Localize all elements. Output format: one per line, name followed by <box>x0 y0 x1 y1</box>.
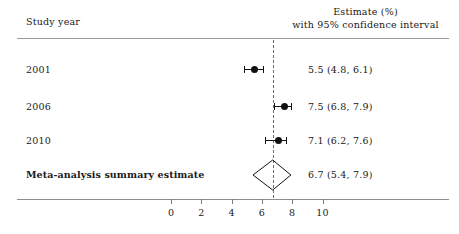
axis-tick <box>292 199 293 204</box>
column-header-estimate-line1: Estimate (%) <box>278 5 453 18</box>
row-label: 2001 <box>26 64 51 75</box>
ci-cap-lower <box>274 103 275 110</box>
study-row: 20015.5 (4.8, 6.1) <box>0 55 459 85</box>
summary-diamond <box>252 158 292 192</box>
point-estimate-marker <box>281 103 288 110</box>
header-divider-rule <box>17 38 449 39</box>
column-header-estimate: Estimate (%) with 95% confidence interva… <box>278 5 453 31</box>
ci-cap-lower <box>244 66 245 73</box>
row-label: 2010 <box>26 135 51 146</box>
axis-tick-label: 8 <box>280 207 304 218</box>
summary-row: Meta-analysis summary estimate6.7 (5.4, … <box>0 160 459 190</box>
axis-tick-label: 10 <box>311 207 335 218</box>
column-header-study-year: Study year <box>26 16 80 27</box>
row-label: 2006 <box>26 101 51 112</box>
axis-tick-label: 6 <box>250 207 274 218</box>
axis-tick-label: 0 <box>159 207 183 218</box>
ci-cap-upper <box>263 66 264 73</box>
axis-tick <box>171 199 172 204</box>
column-header-estimate-line2: with 95% confidence interval <box>278 18 453 31</box>
row-estimate-value: 7.1 (6.2, 7.6) <box>308 135 373 146</box>
axis-baseline-rule <box>17 199 449 200</box>
ci-cap-upper <box>291 103 292 110</box>
row-estimate-value: 7.5 (6.8, 7.9) <box>308 101 373 112</box>
study-row: 20107.1 (6.2, 7.6) <box>0 126 459 156</box>
row-estimate-value: 6.7 (5.4, 7.9) <box>308 169 373 180</box>
axis-tick <box>201 199 202 204</box>
point-estimate-marker <box>251 66 258 73</box>
axis-tick-label: 2 <box>189 207 213 218</box>
axis-tick <box>232 199 233 204</box>
row-label: Meta-analysis summary estimate <box>26 169 204 180</box>
forest-plot: Study year Estimate (%) with 95% confide… <box>0 0 459 234</box>
study-row: 20067.5 (6.8, 7.9) <box>0 92 459 122</box>
row-estimate-value: 5.5 (4.8, 6.1) <box>308 64 373 75</box>
ci-cap-upper <box>286 137 287 144</box>
ci-cap-lower <box>265 137 266 144</box>
axis-tick <box>323 199 324 204</box>
axis-tick <box>262 199 263 204</box>
point-estimate-marker <box>275 137 282 144</box>
axis-tick-label: 4 <box>220 207 244 218</box>
